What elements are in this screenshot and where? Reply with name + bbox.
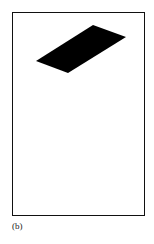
- black-parallelogram: [36, 25, 126, 73]
- figure-canvas: [0, 0, 154, 244]
- figure-caption: (b): [12, 221, 23, 231]
